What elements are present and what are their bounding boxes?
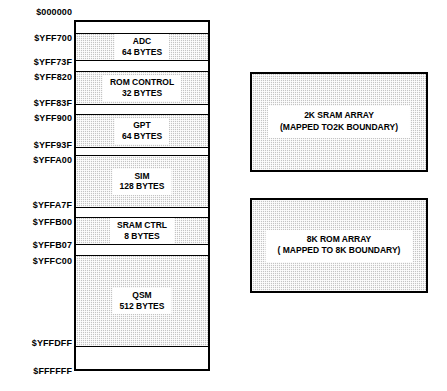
array-title: 2K SRAM ARRAY: [304, 110, 374, 120]
address-label-column: $000000$YFF700$YFF73F$YFF820$YFF83F$YFF9…: [0, 0, 72, 391]
address-label: $YFFC00: [6, 256, 72, 266]
band-module-size: 64 BYTES: [122, 47, 162, 58]
band-module-size: 32 BYTES: [110, 88, 174, 99]
band-module-name: SRAM CTRL: [117, 220, 167, 230]
memory-band-label: SIM128 BYTES: [113, 169, 172, 195]
address-label: $YFF73F: [6, 57, 72, 67]
band-module-size: 512 BYTES: [120, 301, 165, 312]
band-module-name: GPT: [133, 120, 150, 130]
band-module-name: QSM: [132, 290, 151, 300]
memory-band-adc: ADC64 BYTES: [76, 33, 208, 61]
address-label: $YFF900: [6, 113, 72, 123]
band-module-size: 64 BYTES: [122, 131, 162, 142]
array-title: 8K ROM ARRAY: [307, 234, 372, 244]
address-label: $YFFA7F: [6, 200, 72, 210]
array-box-sram-array: 2K SRAM ARRAY(MAPPED TO2K BOUNDARY): [250, 72, 428, 172]
band-module-name: SIM: [134, 171, 149, 181]
memory-band-gap-4: [76, 208, 208, 217]
address-label: $000000: [6, 7, 72, 17]
memory-band-label: SRAM CTRL8 BYTES: [110, 218, 174, 244]
memory-band-label: QSM512 BYTES: [113, 288, 172, 314]
array-boundary-note: (MAPPED TO2K BOUNDARY): [280, 122, 398, 134]
address-label: $YFF83F: [6, 98, 72, 108]
memory-band-gap-1: [76, 61, 208, 71]
address-label: $YFF820: [6, 72, 72, 82]
memory-band-sim: SIM128 BYTES: [76, 155, 208, 208]
band-module-name: ADC: [133, 36, 151, 46]
memory-band-gap-5: [76, 245, 208, 255]
address-label: $YFFB00: [6, 217, 72, 227]
address-label: $YFF700: [6, 33, 72, 43]
array-box-label: 2K SRAM ARRAY(MAPPED TO2K BOUNDARY): [268, 106, 410, 138]
band-module-name: ROM CONTROL: [110, 77, 174, 87]
array-boundary-note: ( MAPPED TO 8K BOUNDARY): [278, 245, 401, 257]
memory-band-rom-control: ROM CONTROL32 BYTES: [76, 71, 208, 105]
memory-map-diagram: $000000$YFF700$YFF73F$YFF820$YFF83F$YFF9…: [0, 0, 447, 391]
memory-band-qsm: QSM512 BYTES: [76, 255, 208, 347]
band-module-size: 8 BYTES: [117, 231, 167, 242]
address-label: $YFFB07: [6, 240, 72, 250]
array-box-label: 8K ROM ARRAY( MAPPED TO 8K BOUNDARY): [266, 230, 413, 262]
address-label: $YFFA00: [6, 155, 72, 165]
memory-band-label: GPT64 BYTES: [115, 118, 169, 144]
memory-band-sram-ctrl: SRAM CTRL8 BYTES: [76, 217, 208, 245]
band-module-size: 128 BYTES: [120, 181, 165, 192]
memory-band-gap-2: [76, 105, 208, 114]
address-label: $FFFFFF: [6, 366, 72, 376]
memory-band-gap-3: [76, 148, 208, 155]
memory-band-label: ADC64 BYTES: [115, 34, 169, 60]
address-label: $YFF93F: [6, 140, 72, 150]
memory-band-reserved-bottom: [76, 347, 208, 369]
address-label: $YFFDFF: [6, 338, 72, 348]
memory-band-label: ROM CONTROL32 BYTES: [103, 75, 181, 101]
array-box-rom-array: 8K ROM ARRAY( MAPPED TO 8K BOUNDARY): [250, 198, 428, 293]
memory-band-reserved-top: [76, 22, 208, 33]
memory-map-column: ADC64 BYTESROM CONTROL32 BYTESGPT64 BYTE…: [74, 20, 210, 371]
memory-band-gpt: GPT64 BYTES: [76, 114, 208, 148]
